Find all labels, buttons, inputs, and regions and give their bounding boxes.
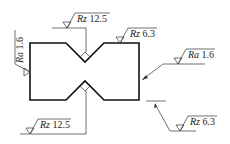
bottom-notch-angle-marker xyxy=(80,86,90,91)
label-left-face: Ra 1.6 xyxy=(14,37,25,64)
part-outline xyxy=(30,43,139,100)
label-bottom-right: Rz 6.3 xyxy=(189,116,215,127)
label-bottom-notch: Rz 12.5 xyxy=(39,119,70,130)
label-top-right: Rz 6.3 xyxy=(129,28,155,39)
top-notch-angle-marker xyxy=(80,52,90,57)
roughness-diagram: Rz 12.5 Rz 6.3 Ra 1.6 Ra 1.6 Rz 12.5 xyxy=(0,0,230,144)
label-top-notch: Rz 12.5 xyxy=(76,13,107,24)
label-right-face: Ra 1.6 xyxy=(187,49,214,60)
